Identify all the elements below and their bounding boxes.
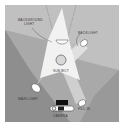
label-backlight: BACKLIGHT [78, 31, 98, 35]
lighting-diagram: BACKGROUND LIGHT BACKLIGHT SUBJECT MAIN … [0, 0, 128, 132]
label-main-light: MAIN LIGHT [18, 97, 38, 101]
label-camera: CAMERA [53, 114, 69, 118]
camera-center-icon [58, 107, 64, 111]
camera-viewfinder-icon [56, 100, 68, 105]
label-subject: SUBJECT [53, 69, 69, 73]
label-fill-in: FILL-IN [78, 107, 91, 111]
subject-icon [56, 55, 66, 65]
lighting-diagram-svg: BACKGROUND LIGHT BACKLIGHT SUBJECT MAIN … [0, 0, 128, 132]
label-background-light-2: LIGHT [24, 22, 34, 26]
